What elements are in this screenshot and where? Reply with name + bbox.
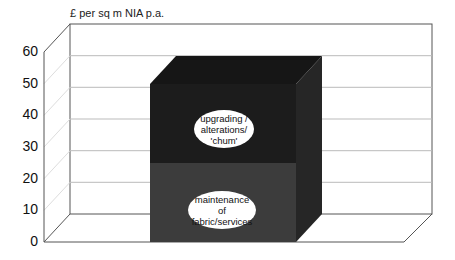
bar-top-face (150, 56, 322, 84)
y-tick-0: 0 (6, 233, 38, 249)
y-tick-60: 60 (6, 43, 38, 59)
label-bubble-maintenance: maintenance of fabric/services (188, 191, 256, 229)
bubble-line: maintenance (192, 194, 253, 205)
bubble-line: fabric/services (192, 216, 253, 227)
y-axis-unit-label: £ per sq m NIA p.a. (70, 7, 164, 19)
y-tick-10: 10 (6, 201, 38, 217)
bubble-line: alterations/ (200, 124, 248, 135)
y-tick-50: 50 (6, 75, 38, 91)
bubble-line: 'chum' (200, 135, 248, 146)
y-tick-20: 20 (6, 170, 38, 186)
y-tick-30: 30 (6, 138, 38, 154)
bubble-line: of (192, 205, 253, 216)
label-bubble-upgrading: upgrading / alterations/ 'chum' (194, 110, 254, 148)
y-tick-40: 40 (6, 106, 38, 122)
floor-edge (44, 214, 70, 242)
side-wall-grid (44, 56, 70, 211)
bubble-line: upgrading / (200, 113, 248, 124)
bar-side-face (296, 56, 322, 242)
